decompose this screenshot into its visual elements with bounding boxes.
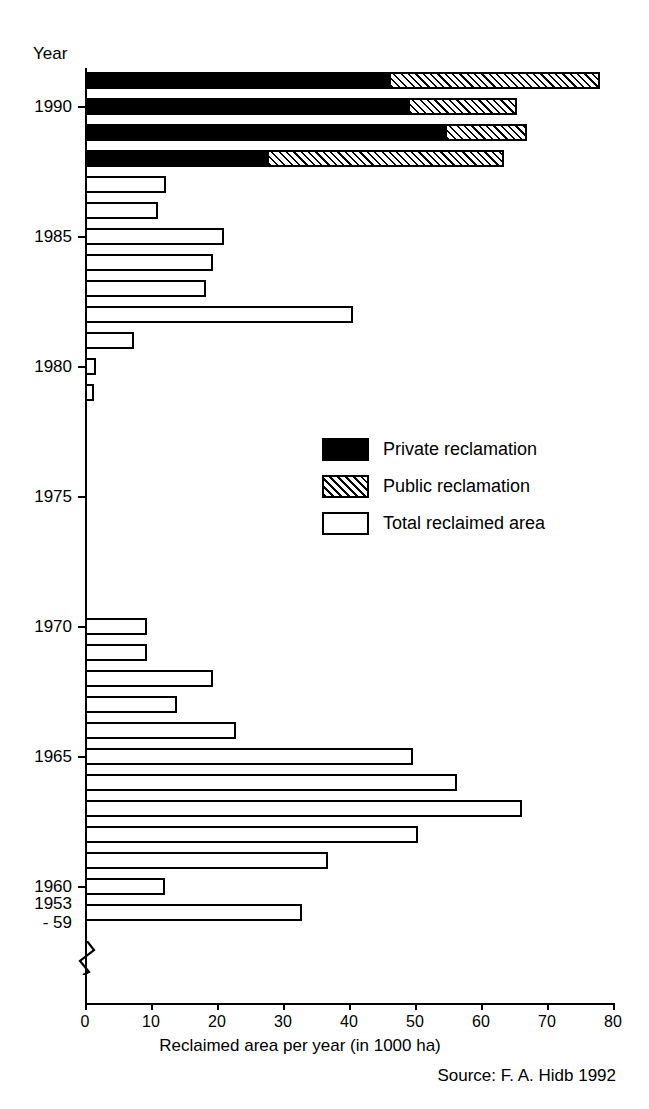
legend-item-private: Private reclamation: [322, 437, 545, 462]
bar-segment-total-1964: [85, 774, 457, 791]
x-tick-label-0: 0: [65, 1013, 105, 1031]
bar-1979: [85, 384, 94, 401]
bar-segment-total-1961: [85, 852, 328, 869]
bar-segment-total-1967: [85, 696, 177, 713]
legend-label-private: Private reclamation: [383, 439, 537, 460]
x-tick-label-40: 40: [329, 1013, 369, 1031]
bar-segment-private-1989: [85, 124, 445, 141]
bar-1964: [85, 774, 457, 791]
bar-1989: [85, 124, 527, 141]
bar-1965: [85, 748, 413, 765]
y-tick-label-59: - 59: [12, 913, 72, 932]
bar-segment-total-1985: [85, 228, 224, 245]
bar-1991: [85, 72, 600, 89]
y-axis-caption: Year: [33, 44, 67, 64]
bar-segment-public-1989: [445, 124, 528, 141]
legend-swatch-public-icon: [322, 475, 369, 498]
bar-1966: [85, 722, 236, 739]
bar-segment-total-1966: [85, 722, 236, 739]
bar-1980: [85, 358, 96, 375]
bar-segment-total-1980: [85, 358, 96, 375]
bar-segment-public-1991: [389, 72, 600, 89]
x-tick-label-60: 60: [461, 1013, 501, 1031]
bar-1961: [85, 852, 328, 869]
bar-1962: [85, 826, 418, 843]
x-tick-50: [415, 1003, 417, 1010]
bar-1967: [85, 696, 177, 713]
y-tick-label-1965: 1965: [12, 747, 72, 766]
x-tick-40: [349, 1003, 351, 1010]
bar-1960: [85, 878, 165, 895]
bar-segment-total-1960: [85, 878, 165, 895]
bar-1982: [85, 306, 353, 323]
bar-1981: [85, 332, 134, 349]
bar-segment-total-1984: [85, 254, 213, 271]
bar-1984: [85, 254, 213, 271]
bar-segment-total-1981: [85, 332, 134, 349]
bar-segment-private-1991: [85, 72, 389, 89]
bar-segment-total-1965: [85, 748, 413, 765]
x-tick-30: [283, 1003, 285, 1010]
bar-1990: [85, 98, 517, 115]
bar-segment-private-1988: [85, 150, 267, 167]
bar-1987: [85, 176, 166, 193]
x-tick-0: [85, 1003, 87, 1010]
bar-segment-public-1990: [408, 98, 517, 115]
legend-swatch-total-icon: [322, 512, 369, 535]
bar-1963: [85, 800, 522, 817]
legend-label-public: Public reclamation: [383, 476, 530, 497]
y-tick-label-1970: 1970: [12, 617, 72, 636]
x-tick-label-70: 70: [527, 1013, 567, 1031]
bar-segment-total-1962: [85, 826, 418, 843]
bar-segment-private-1990: [85, 98, 408, 115]
bar-segment-total-1979: [85, 384, 94, 401]
source-note: Source: F. A. Hidb 1992: [437, 1066, 616, 1086]
bar-segment-public-1988: [267, 150, 505, 167]
x-tick-80: [613, 1003, 615, 1010]
legend-item-public: Public reclamation: [322, 474, 545, 499]
bar-segment-total-1953-59: [85, 904, 302, 921]
legend-item-total: Total reclaimed area: [322, 511, 545, 536]
y-tick-label-1980: 1980: [12, 357, 72, 376]
x-tick-label-30: 30: [263, 1013, 303, 1031]
axis-break-symbol: [74, 941, 100, 975]
bar-1953-59: [85, 904, 302, 921]
bar-1983: [85, 280, 206, 297]
bar-1970: [85, 618, 147, 635]
bar-1969: [85, 644, 147, 661]
bar-segment-total-1968: [85, 670, 213, 687]
chart-container: Year 01020304050607080 19901985198019751…: [0, 0, 649, 1109]
y-tick-label-1953: 1953: [12, 894, 72, 913]
bar-1988: [85, 150, 504, 167]
bar-segment-total-1982: [85, 306, 353, 323]
y-tick-label-1985: 1985: [12, 227, 72, 246]
chart-legend: Private reclamation Public reclamation T…: [322, 437, 545, 548]
bar-segment-total-1987: [85, 176, 166, 193]
x-tick-20: [217, 1003, 219, 1010]
x-tick-label-20: 20: [197, 1013, 237, 1031]
x-tick-60: [481, 1003, 483, 1010]
y-tick-1975: [78, 496, 87, 498]
y-tick-label-1990: 1990: [12, 97, 72, 116]
legend-label-total: Total reclaimed area: [383, 513, 545, 534]
x-tick-label-80: 80: [593, 1013, 633, 1031]
bar-1968: [85, 670, 213, 687]
legend-swatch-private-icon: [322, 438, 369, 461]
bar-segment-total-1969: [85, 644, 147, 661]
bar-segment-total-1986: [85, 202, 158, 219]
bar-segment-total-1983: [85, 280, 206, 297]
bar-segment-total-1963: [85, 800, 522, 817]
bar-1985: [85, 228, 224, 245]
y-tick-label-1960: 1960: [12, 877, 72, 896]
y-tick-label-1975: 1975: [12, 487, 72, 506]
x-tick-70: [547, 1003, 549, 1010]
x-tick-10: [151, 1003, 153, 1010]
bar-1986: [85, 202, 158, 219]
x-axis-title: Reclaimed area per year (in 1000 ha): [0, 1036, 600, 1056]
bar-segment-total-1970: [85, 618, 147, 635]
x-tick-label-10: 10: [131, 1013, 171, 1031]
x-tick-label-50: 50: [395, 1013, 435, 1031]
